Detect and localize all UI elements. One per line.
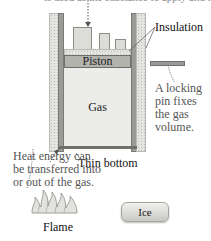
flame-icon[interactable] <box>30 189 80 215</box>
flame-label: Flame <box>43 221 73 234</box>
locking-pin-label: A locking pin fixes the gas volume. <box>155 82 202 134</box>
heat-transfer-label: Heat energy can be transferred into or o… <box>13 150 101 189</box>
insulation-label: Insulation <box>155 21 203 34</box>
ice-block[interactable]: Ice <box>121 202 169 222</box>
